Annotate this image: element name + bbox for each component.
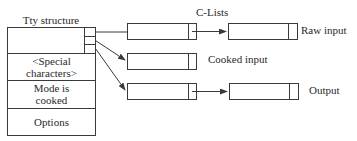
tty-field-special-line1: <Special xyxy=(8,55,95,67)
clists-label: C-Lists xyxy=(196,7,228,18)
tty-field-mode: Mode is cooked xyxy=(8,81,95,109)
tty-field-mode-line1: Mode is xyxy=(8,82,95,94)
tty-field-special-characters: <Special characters> xyxy=(8,54,95,81)
tty-structure-title: Tty structure xyxy=(7,15,95,26)
tty-field-mode-line2: cooked xyxy=(8,94,95,106)
queue-label-output: Output xyxy=(309,85,340,96)
tty-field-options: Options xyxy=(8,109,95,135)
clist-heads xyxy=(128,24,197,100)
queue-label-cooked-input: Cooked input xyxy=(208,54,268,65)
tty-field-special-line2: characters> xyxy=(8,67,95,79)
tty-field-options-label: Options xyxy=(34,116,69,128)
queue-label-raw-input: Raw input xyxy=(301,25,347,36)
